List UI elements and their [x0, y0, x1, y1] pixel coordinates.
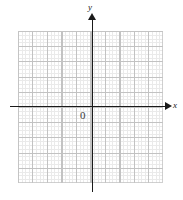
origin-label: 0 — [80, 110, 86, 121]
y-axis-line — [92, 20, 93, 192]
x-axis-line — [10, 106, 167, 107]
x-axis-arrowhead-icon — [165, 102, 172, 110]
grid-border — [18, 31, 163, 183]
y-axis-label: y — [88, 3, 92, 12]
x-axis-label: x — [173, 101, 177, 110]
coordinate-plane-figure: y x 0 — [0, 0, 183, 200]
grid-area — [18, 31, 163, 183]
y-axis-arrowhead-icon — [88, 13, 96, 20]
